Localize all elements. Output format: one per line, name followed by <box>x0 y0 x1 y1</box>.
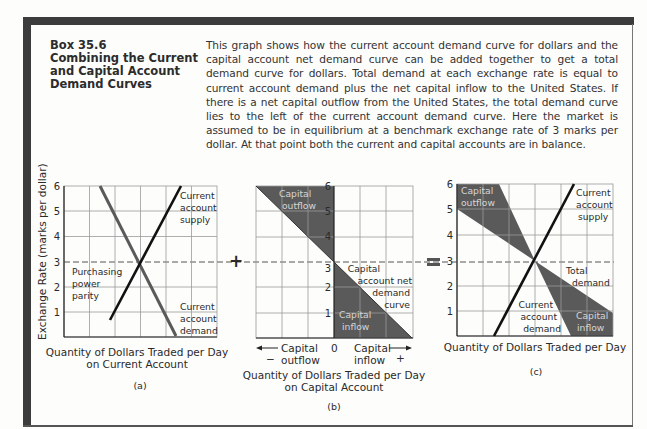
chart-c: 1 2 3 4 5 6 Capital outflow Current acco… <box>444 179 626 377</box>
svg-text:5: 5 <box>447 204 453 215</box>
chart-a-supply-label: Current account supply <box>180 190 217 225</box>
svg-text:Quantity of Dollars Traded per: Quantity of Dollars Traded per Day <box>243 369 425 381</box>
svg-text:Capital: Capital <box>339 309 371 320</box>
svg-text:1: 1 <box>325 308 331 319</box>
chart-b: 1 2 3 4 5 6 Capital outflow Capital infl… <box>243 181 425 412</box>
chart-c-demand-label: Current account demand <box>518 299 561 334</box>
svg-text:account: account <box>180 202 217 213</box>
chart-b-caption: (b) <box>327 401 340 412</box>
chart-a-supply-line <box>110 186 181 320</box>
chart-b-outflow-label: Capital outflow <box>279 188 316 211</box>
svg-text:demand: demand <box>180 325 218 336</box>
svg-text:5: 5 <box>325 206 331 217</box>
chart-b-outflow-arrow: Capital outflow − <box>256 342 320 366</box>
svg-text:demand: demand <box>572 277 610 288</box>
svg-text:6: 6 <box>325 181 331 192</box>
chart-c-outflow-label: Capital outflow <box>461 185 495 208</box>
y-axis-label: Exchange Rate (marks per dollar) <box>36 163 48 340</box>
svg-text:5: 5 <box>54 206 60 217</box>
svg-text:on Capital Account: on Capital Account <box>285 381 384 393</box>
chart-a-demand-label: Current account demand <box>180 301 218 336</box>
svg-text:2: 2 <box>54 282 60 293</box>
svg-text:6: 6 <box>447 179 453 190</box>
svg-text:supply: supply <box>578 211 609 222</box>
svg-text:inflow: inflow <box>577 322 605 333</box>
svg-text:Current: Current <box>180 301 215 312</box>
svg-text:outflow: outflow <box>282 200 316 211</box>
svg-text:2: 2 <box>325 282 331 293</box>
svg-text:account: account <box>520 311 557 322</box>
svg-text:Total: Total <box>565 265 587 276</box>
chart-c-x-label: Quantity of Dollars Traded per Day <box>444 341 626 353</box>
svg-text:−: − <box>266 353 275 365</box>
chart-b-zero-label: 0 <box>331 342 338 354</box>
svg-text:outflow: outflow <box>461 197 495 208</box>
svg-text:Purchasing: Purchasing <box>72 266 122 277</box>
svg-text:account: account <box>576 199 613 210</box>
chart-b-x-label: Quantity of Dollars Traded per Day on Ca… <box>243 369 425 393</box>
svg-text:3: 3 <box>54 257 60 268</box>
svg-text:4: 4 <box>54 231 60 242</box>
svg-text:Current: Current <box>576 187 611 198</box>
svg-text:Capital: Capital <box>348 263 380 274</box>
chart-b-inflow-arrow: Capital inflow + <box>354 342 412 366</box>
svg-text:account: account <box>180 313 217 324</box>
svg-text:on Current Account: on Current Account <box>86 358 188 370</box>
svg-text:Quantity of Dollars Traded per: Quantity of Dollars Traded per Day <box>46 346 228 358</box>
svg-text:2: 2 <box>447 281 453 292</box>
svg-text:Capital: Capital <box>576 310 608 321</box>
svg-text:parity: parity <box>72 290 99 301</box>
chart-a-x-label: Quantity of Dollars Traded per Day on Cu… <box>46 346 228 370</box>
chart-c-caption: (c) <box>530 366 543 377</box>
svg-text:+: + <box>396 352 405 364</box>
chart-c-supply-label: Current account supply <box>576 187 613 222</box>
chart-c-y-ticks: 1 2 3 4 5 6 <box>447 179 453 317</box>
svg-text:3: 3 <box>325 263 331 274</box>
svg-text:6: 6 <box>54 181 60 192</box>
svg-text:4: 4 <box>325 231 331 242</box>
svg-text:Capital: Capital <box>279 188 311 199</box>
svg-text:Capital: Capital <box>281 342 318 354</box>
svg-text:3: 3 <box>447 256 453 267</box>
svg-text:Current: Current <box>518 299 553 310</box>
svg-text:4: 4 <box>447 230 453 241</box>
chart-a-demand-line <box>100 186 176 336</box>
svg-text:power: power <box>72 278 101 289</box>
chart-a-caption: (a) <box>133 380 146 391</box>
svg-text:outflow: outflow <box>281 354 320 366</box>
chart-a: 1 2 3 4 5 6 Exchange Rate (marks per dol… <box>36 163 228 391</box>
plus-operator: + <box>229 251 243 271</box>
svg-text:account net: account net <box>357 275 412 286</box>
svg-text:curve: curve <box>384 299 410 310</box>
chart-b-inflow-label: Capital inflow <box>339 309 371 332</box>
charts-figure: 1 2 3 4 5 6 Exchange Rate (marks per dol… <box>0 0 647 429</box>
svg-text:demand: demand <box>523 323 561 334</box>
svg-text:Capital: Capital <box>461 185 493 196</box>
svg-text:demand: demand <box>372 287 410 298</box>
svg-text:Capital: Capital <box>354 342 391 354</box>
svg-text:1: 1 <box>54 307 60 318</box>
chart-c-total-demand-label: Total demand <box>565 265 610 288</box>
svg-text:1: 1 <box>447 306 453 317</box>
chart-a-y-ticks: 1 2 3 4 5 6 <box>54 181 60 318</box>
svg-text:inflow: inflow <box>354 354 386 366</box>
svg-text:Current: Current <box>180 190 215 201</box>
svg-text:supply: supply <box>180 214 211 225</box>
chart-c-inflow-label: Capital inflow <box>576 310 608 333</box>
svg-text:inflow: inflow <box>342 321 370 332</box>
